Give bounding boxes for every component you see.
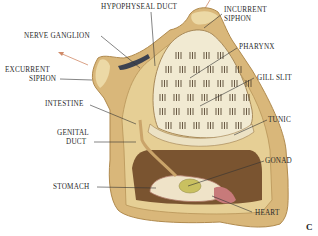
label-genital-duct-line1: GENITAL <box>57 129 89 138</box>
pharynx-basket <box>153 30 253 138</box>
label-incurrent-siphon-line1: INCURRENT <box>224 6 267 15</box>
label-nerve-ganglion: NERVE GANGLION <box>24 32 90 41</box>
label-gonad: GONAD <box>265 157 292 166</box>
label-stomach: STOMACH <box>53 183 89 192</box>
label-incurrent-siphon-line2: SIPHON <box>224 15 251 24</box>
label-intestine: INTESTINE <box>45 100 84 109</box>
label-excurrent-siphon-line1: EXCURRENT <box>5 66 50 75</box>
label-gill-slit: GILL SLIT <box>257 74 292 83</box>
label-tunic: TUNIC <box>268 116 291 125</box>
label-hypophyseal-duct: HYPOPHYSEAL DUCT <box>101 3 177 12</box>
gonad <box>179 179 201 193</box>
label-excurrent-siphon-line2: SIPHON <box>29 75 56 84</box>
label-heart: HEART <box>255 209 280 218</box>
panel-letter: C <box>306 222 313 232</box>
label-pharynx: PHARYNX <box>239 43 275 52</box>
excurrent-flow-arrow <box>60 53 88 65</box>
label-genital-duct-line2: DUCT <box>66 138 86 147</box>
